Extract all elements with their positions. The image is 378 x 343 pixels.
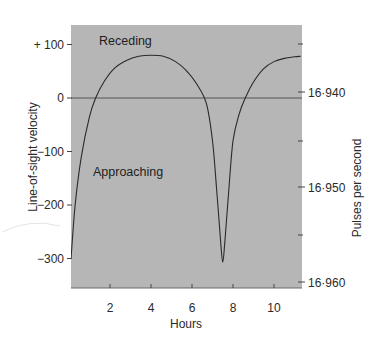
x-tick-label: 8 (230, 301, 237, 315)
scan-artifact (2, 223, 60, 232)
x-axis: 246810 (107, 284, 281, 315)
annotation-approaching: Approaching (93, 165, 163, 179)
annotation-receding: Receding (99, 34, 152, 48)
x-tick-label: 4 (148, 301, 155, 315)
y-tick-label: −100 (37, 145, 64, 159)
y2-tick-label: 16·960 (308, 276, 346, 290)
y2-axis-title: Pulses per second (350, 139, 364, 238)
x-tick-label: 10 (267, 301, 281, 315)
x-tick-label: 6 (189, 301, 196, 315)
y2-tick-label: 16·940 (308, 86, 346, 100)
y-axis-title: Line-of-sight velocity (26, 102, 40, 211)
y-tick-label: −200 (37, 198, 64, 212)
y-tick-label: + 100 (34, 38, 65, 52)
y-axis-right: 16·94016·95016·960 (298, 44, 346, 290)
x-tick-label: 2 (107, 301, 114, 315)
y-tick-label: −300 (37, 252, 64, 266)
x-axis-title: Hours (170, 317, 202, 331)
y2-tick-label: 16·950 (308, 181, 346, 195)
plot-area (71, 25, 302, 288)
pulsar-velocity-chart: 246810 + 1000−100−200−300 16·94016·95016… (0, 0, 378, 343)
y-tick-label: 0 (57, 91, 64, 105)
